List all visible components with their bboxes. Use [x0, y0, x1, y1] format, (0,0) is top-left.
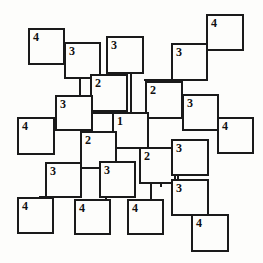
edge-n8-n11 — [92, 112, 114, 114]
node-n22[interactable]: 4 — [191, 214, 229, 252]
node-n4[interactable]: 4 — [206, 14, 244, 51]
diagram-canvas: 4334322334142233334444 — [0, 0, 263, 263]
node-n9[interactable]: 3 — [182, 94, 219, 131]
node-n16[interactable]: 3 — [171, 179, 209, 216]
edge-n3-n11 — [130, 72, 132, 114]
node-n18[interactable]: 3 — [99, 161, 136, 198]
node-label: 2 — [95, 77, 101, 91]
node-label: 3 — [69, 45, 75, 59]
node-label: 4 — [79, 202, 85, 216]
node-n10[interactable]: 4 — [17, 117, 55, 155]
node-label: 4 — [22, 200, 28, 214]
node-n1[interactable]: 4 — [28, 28, 65, 65]
node-label: 3 — [176, 142, 182, 156]
node-n7[interactable]: 2 — [145, 81, 183, 119]
node-label: 4 — [196, 217, 202, 231]
node-label: 3 — [176, 182, 182, 196]
node-label: 4 — [33, 31, 39, 45]
node-label: 3 — [60, 98, 66, 112]
node-label: 1 — [117, 115, 123, 129]
node-label: 2 — [144, 150, 150, 164]
node-label: 4 — [22, 120, 28, 134]
node-label: 4 — [211, 17, 217, 31]
node-n11[interactable]: 1 — [112, 112, 149, 149]
edge-n14-n21 — [150, 184, 152, 200]
node-n3[interactable]: 3 — [106, 36, 144, 74]
node-n8[interactable]: 3 — [55, 95, 93, 131]
node-label: 3 — [50, 165, 56, 179]
node-n19[interactable]: 4 — [17, 197, 54, 234]
node-n12[interactable]: 4 — [217, 117, 254, 154]
node-label: 3 — [176, 46, 182, 60]
node-label: 3 — [187, 97, 193, 111]
node-n21[interactable]: 4 — [127, 199, 164, 235]
node-label: 3 — [111, 39, 117, 53]
node-label: 2 — [85, 134, 91, 148]
node-n15[interactable]: 3 — [171, 139, 209, 176]
node-n5[interactable]: 3 — [171, 43, 208, 81]
node-label: 3 — [104, 164, 110, 178]
node-label: 4 — [222, 120, 228, 134]
node-label: 4 — [132, 202, 138, 216]
node-n6[interactable]: 2 — [90, 74, 128, 112]
node-n17[interactable]: 3 — [45, 162, 82, 198]
node-label: 2 — [150, 84, 156, 98]
node-n20[interactable]: 4 — [74, 199, 111, 235]
